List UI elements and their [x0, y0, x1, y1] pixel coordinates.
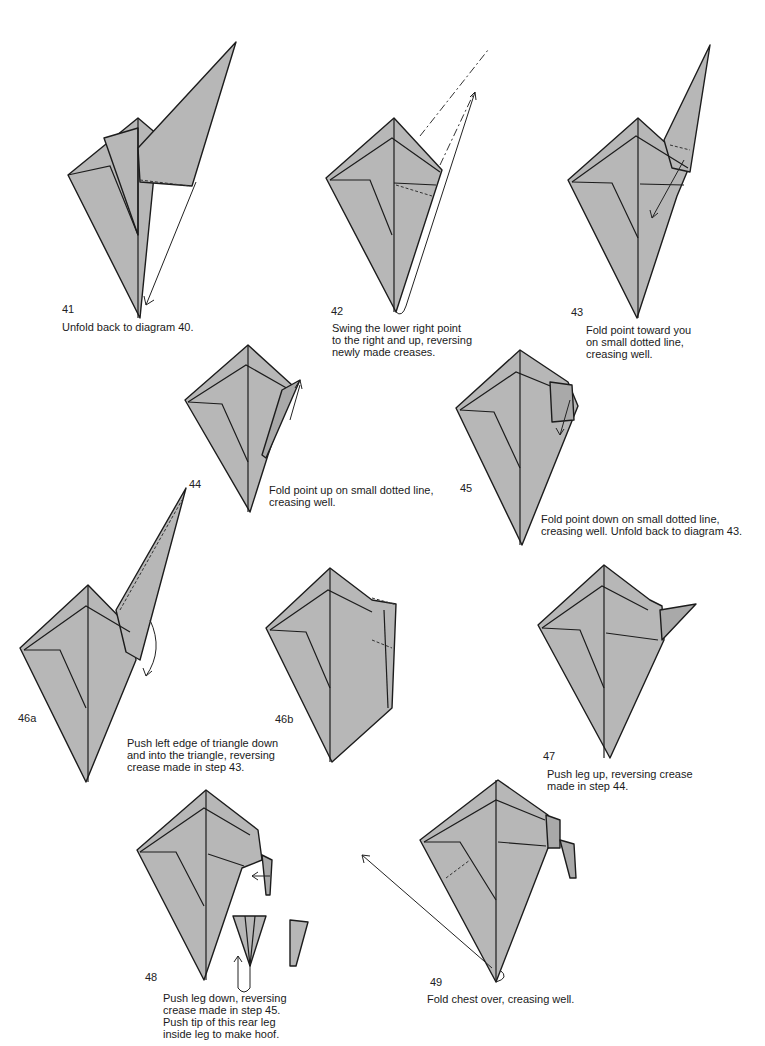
step-caption: Fold point up on small dotted line, crea…: [269, 484, 434, 508]
step-caption: Fold point down on small dotted line, cr…: [541, 513, 742, 537]
step-47-diagram: [0, 0, 765, 1046]
step-48: 48 Push leg down, reversing crease made …: [0, 0, 765, 1046]
step-45: 45 Fold point down on small dotted line,…: [0, 0, 765, 1046]
step-47: 47 Push leg up, reversing crease made in…: [0, 0, 765, 1046]
step-42-diagram: [0, 0, 765, 1046]
step-number: 43: [571, 306, 583, 318]
step-43-diagram: [0, 0, 765, 1046]
step-41-diagram: [0, 0, 765, 1046]
step-caption: Swing the lower right point to the right…: [332, 322, 472, 358]
step-caption: Fold point toward you on small dotted li…: [586, 324, 691, 360]
step-42: 42 Swing the lower right point to the ri…: [0, 0, 765, 1046]
step-number: 41: [62, 303, 74, 315]
step-43: 43 Fold point toward you on small dotted…: [0, 0, 765, 1046]
step-number: 45: [460, 482, 472, 494]
step-caption: Push left edge of triangle down and into…: [127, 737, 278, 773]
step-caption: Push leg up, reversing crease made in st…: [547, 768, 693, 792]
step-46a: 46a Push left edge of triangle down and …: [0, 0, 765, 1046]
step-number: 44: [189, 478, 201, 490]
step-caption: Unfold back to diagram 40.: [62, 321, 193, 333]
step-caption: Fold chest over, creasing well.: [427, 993, 574, 1005]
step-number: 47: [543, 750, 555, 762]
step-number: 42: [331, 305, 343, 317]
step-number: 46a: [18, 712, 36, 724]
step-46a-diagram: [0, 0, 765, 1046]
step-46b-diagram: [0, 0, 765, 1046]
step-number: 46b: [275, 713, 293, 725]
step-45-diagram: [0, 0, 765, 1046]
step-44-diagram: [0, 0, 765, 1046]
step-49-diagram: [0, 0, 765, 1046]
step-41: 41 Unfold back to diagram 40.: [0, 0, 765, 1046]
step-49: 49 Fold chest over, creasing well.: [0, 0, 765, 1046]
step-number: 49: [430, 976, 442, 988]
step-44: 44 Fold point up on small dotted line, c…: [0, 0, 765, 1046]
step-46b: 46b: [0, 0, 765, 1046]
step-caption: Push leg down, reversing crease made in …: [163, 992, 287, 1040]
step-48-diagram: [0, 0, 765, 1046]
step-number: 48: [145, 971, 157, 983]
